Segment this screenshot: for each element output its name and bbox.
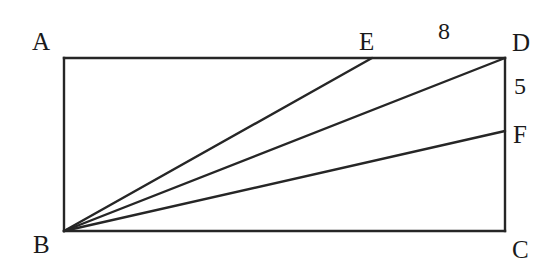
diagram-canvas <box>0 0 555 276</box>
cevian-lines <box>64 58 505 231</box>
dimension-label-ed: 8 <box>438 19 450 43</box>
vertex-label-e: E <box>359 29 374 54</box>
segment-bd <box>64 58 505 231</box>
segment-be <box>64 58 372 231</box>
dimension-label-df: 5 <box>514 74 526 98</box>
segment-bf <box>64 131 505 231</box>
vertex-label-c: C <box>512 237 529 262</box>
vertex-label-f: F <box>513 122 527 147</box>
vertex-label-a: A <box>32 29 50 54</box>
vertex-label-d: D <box>512 30 530 55</box>
vertex-label-b: B <box>33 232 50 257</box>
geometry-diagram: A B C D E F 8 5 <box>0 0 555 276</box>
